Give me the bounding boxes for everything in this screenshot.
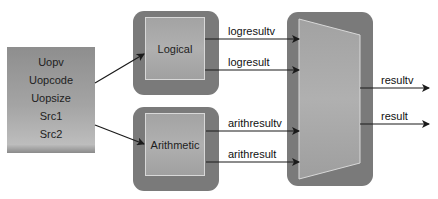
- label-arithresultv: arithresultv: [228, 117, 282, 129]
- label-resultv: resultv: [381, 74, 413, 86]
- wire-inputs-to-logical: [95, 54, 144, 83]
- label-result: result: [381, 110, 408, 122]
- label-logresultv: logresultv: [228, 25, 275, 37]
- wires-layer: [0, 0, 438, 199]
- mux-trapezoid: [299, 19, 360, 179]
- label-logresult: logresult: [228, 56, 270, 68]
- label-arithresult: arithresult: [228, 148, 276, 160]
- wire-inputs-to-arithmetic: [95, 125, 144, 144]
